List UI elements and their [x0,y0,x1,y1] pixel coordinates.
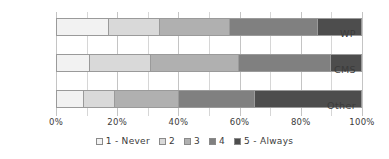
legend-item[interactable]: 3 [184,137,200,146]
bar-segment [179,91,255,107]
bar-segment [84,91,114,107]
legend-item[interactable]: 1 - Never [96,137,150,146]
legend-label: 3 [194,137,200,146]
bar-segment [57,91,84,107]
x-tick-label: 0% [49,118,63,127]
x-tick-label: 80% [291,118,311,127]
legend-item[interactable]: 5 - Always [234,137,293,146]
legend-swatch-icon [184,138,191,145]
legend-label: 2 [169,137,175,146]
category-label: CMS [296,65,356,75]
legend-label: 5 - Always [244,137,293,146]
x-tick-label: 100% [349,118,375,127]
bar-segment [109,19,161,35]
x-tick-label: 20% [107,118,127,127]
bar-segment [90,55,151,71]
bar-segment [57,55,90,71]
legend-swatch-icon [96,138,103,145]
legend-label: 1 - Never [106,137,150,146]
legend-swatch-icon [209,138,216,145]
category-label: Other [296,101,356,111]
legend-item[interactable]: 2 [159,137,175,146]
chart-legend: 1 - Never2345 - Always [0,137,389,146]
x-axis-tick-labels: 0%20%40%60%80%100% [56,118,362,132]
x-tick-label: 60% [230,118,250,127]
legend-swatch-icon [234,138,241,145]
legend-label: 4 [219,137,225,146]
bar-segment [160,19,230,35]
bar-segment [115,91,179,107]
gridline [362,12,363,116]
legend-item[interactable]: 4 [209,137,225,146]
bar-segment [151,55,239,71]
legend-swatch-icon [159,138,166,145]
stacked-bar-chart: 0%20%40%60%80%100% 1 - Never2345 - Alway… [0,0,389,159]
bar-segment [57,19,109,35]
x-tick-label: 40% [168,118,188,127]
category-label: WP [296,29,356,39]
